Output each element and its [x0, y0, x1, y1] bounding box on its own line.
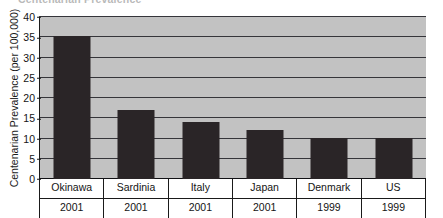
category-cell-denmark: Denmark1999 [297, 179, 361, 218]
bar-chart-figure: Centenarian Prevalence Centenarian Preva… [0, 0, 443, 218]
y-tick-label-30: 30 [23, 52, 40, 63]
category-year-denmark: 1999 [297, 201, 360, 213]
category-cell-divider [104, 198, 167, 199]
category-label-italy: Italy [169, 181, 232, 193]
bar-slot-okinawa [40, 17, 104, 179]
category-cell-us: US1999 [362, 179, 425, 218]
category-year-sardinia: 2001 [104, 201, 167, 213]
y-tick-label-5: 5 [29, 154, 40, 165]
y-tick-label-25: 25 [23, 73, 40, 84]
category-axis-table: Okinawa2001Sardinia2001Italy2001Japan200… [39, 179, 426, 218]
category-cell-divider [40, 198, 103, 199]
category-label-us: US [362, 181, 425, 193]
bar-okinawa[interactable] [54, 36, 91, 179]
cropped-title-remnant: Centenarian Prevalence [18, 0, 278, 4]
category-year-okinawa: 2001 [40, 201, 103, 213]
category-cell-divider [362, 198, 425, 199]
bar-sardinia[interactable] [118, 110, 155, 179]
category-label-denmark: Denmark [297, 181, 360, 193]
category-label-okinawa: Okinawa [40, 181, 103, 193]
bar-slot-sardinia [104, 17, 168, 179]
category-cell-okinawa: Okinawa2001 [40, 179, 104, 218]
category-label-japan: Japan [233, 181, 296, 193]
bar-italy[interactable] [182, 122, 219, 179]
category-year-italy: 2001 [169, 201, 232, 213]
y-tick-label-15: 15 [23, 113, 40, 124]
bar-slot-japan [233, 17, 297, 179]
bar-japan[interactable] [247, 130, 284, 179]
bar-denmark[interactable] [311, 138, 348, 179]
category-cell-divider [169, 198, 232, 199]
y-axis-title: Centenarian Prevalence (per 100,000) [8, 0, 20, 196]
bar-slot-us [362, 17, 426, 179]
category-cell-italy: Italy2001 [169, 179, 233, 218]
y-tick-label-40: 40 [23, 12, 40, 23]
y-tick-label-10: 10 [23, 133, 40, 144]
category-cell-sardinia: Sardinia2001 [104, 179, 168, 218]
bar-slot-italy [169, 17, 233, 179]
y-tick-label-35: 35 [23, 32, 40, 43]
bar-slot-denmark [297, 17, 361, 179]
category-cell-divider [233, 198, 296, 199]
category-year-us: 1999 [362, 201, 425, 213]
category-year-japan: 2001 [233, 201, 296, 213]
category-cell-divider [297, 198, 360, 199]
y-tick-label-20: 20 [23, 93, 40, 104]
category-cell-japan: Japan2001 [233, 179, 297, 218]
plot-area: 0510152025303540 [39, 16, 426, 179]
category-label-sardinia: Sardinia [104, 181, 167, 193]
bar-group [40, 17, 426, 179]
bar-us[interactable] [375, 138, 412, 179]
